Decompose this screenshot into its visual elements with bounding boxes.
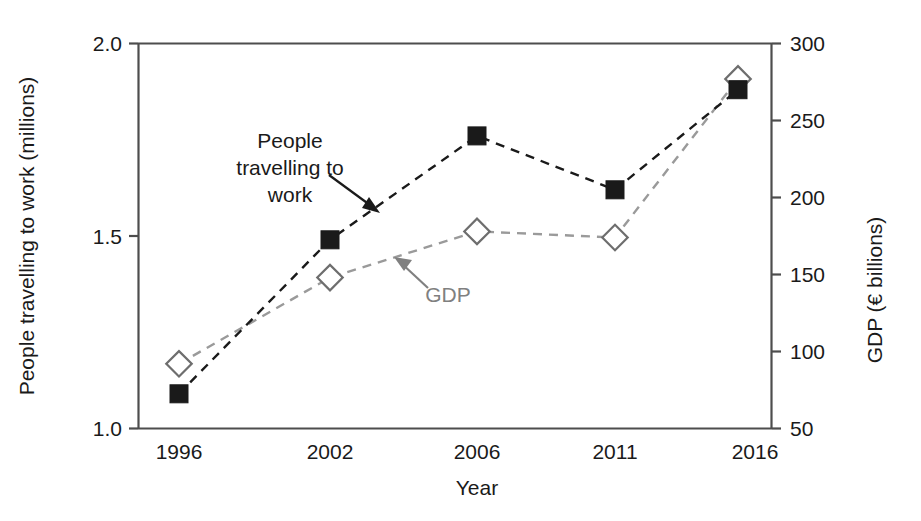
left-tick-label-2-0: 2.0 [93, 32, 122, 55]
people-marker-1996 [170, 385, 188, 403]
series-gdp-line [179, 79, 738, 364]
right-tick-label-200: 200 [790, 186, 825, 209]
gdp-marker-2011 [602, 225, 627, 250]
right-axis-ticks: 300 250 200 150 100 50 [772, 32, 825, 440]
left-tick-label-1-5: 1.5 [93, 225, 122, 248]
right-tick-label-300: 300 [790, 32, 825, 55]
x-tick-label-2006: 2006 [454, 440, 501, 463]
annotation-people-travelling-to-work: People travelling to work [236, 129, 380, 213]
right-tick-label-150: 150 [790, 263, 825, 286]
annotation-people-line-1: People [257, 129, 322, 152]
right-tick-label-250: 250 [790, 109, 825, 132]
annotation-gdp: GDP [394, 257, 471, 306]
annotation-gdp-label: GDP [425, 283, 471, 306]
people-marker-2006 [468, 127, 486, 145]
people-marker-2016 [729, 81, 747, 99]
gdp-marker-2006 [464, 219, 489, 244]
right-tick-label-50: 50 [790, 417, 813, 440]
annotation-gdp-arrow-head-icon [394, 257, 412, 271]
series-gdp [166, 66, 750, 376]
x-axis-title: Year [456, 476, 498, 499]
people-marker-2002 [321, 231, 339, 249]
annotation-people-line-3: work [267, 183, 313, 206]
gdp-marker-1996 [166, 351, 191, 376]
left-axis-title: People travelling to work (millions) [15, 77, 38, 396]
x-tick-label-2016: 2016 [732, 440, 779, 463]
x-axis-tick-labels: 1996 2002 2006 2011 2016 [156, 440, 779, 463]
right-tick-label-100: 100 [790, 340, 825, 363]
x-tick-label-1996: 1996 [156, 440, 203, 463]
gdp-marker-2002 [317, 265, 342, 290]
x-tick-label-2011: 2011 [592, 440, 637, 463]
annotation-people-line-2: travelling to [236, 156, 343, 179]
left-axis-ticks: 2.0 1.5 1.0 [93, 32, 138, 440]
series-gdp-markers [166, 66, 750, 376]
x-tick-label-2002: 2002 [307, 440, 354, 463]
chart-figure: 2.0 1.5 1.0 300 250 200 150 100 50 1996 … [0, 0, 921, 521]
left-tick-label-1-0: 1.0 [93, 417, 122, 440]
plot-frame [138, 43, 772, 429]
chart-svg: 2.0 1.5 1.0 300 250 200 150 100 50 1996 … [0, 0, 921, 521]
right-axis-title: GDP (€ billions) [863, 217, 886, 364]
people-marker-2011 [606, 181, 624, 199]
